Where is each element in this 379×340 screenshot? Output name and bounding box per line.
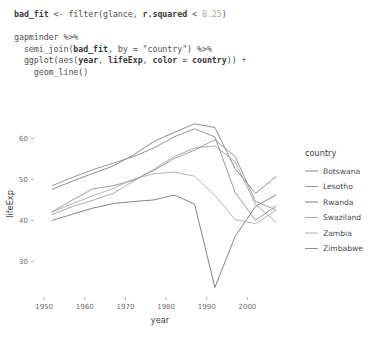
x-tick-label: 1950 [35, 303, 53, 311]
code-token: , [98, 55, 108, 65]
y-tick-label: 40 [19, 217, 28, 225]
code-token: semi_join( [14, 44, 73, 54]
code-line: geom_line() [14, 67, 354, 79]
x-axis-ticks: 195019601970198019902000 [35, 297, 256, 311]
y-tick-label: 30 [19, 258, 28, 266]
x-tick-label: 1970 [117, 303, 135, 311]
y-tick-label: 60 [19, 135, 28, 143]
x-tick-label: 1980 [157, 303, 175, 311]
code-token: bad_fit [73, 44, 108, 54]
code-snippet: bad_fit <- filter(glance, r.squared < 0.… [14, 9, 354, 79]
legend-label-zambia[interactable]: Zambia [323, 229, 352, 238]
code-token: , by = [108, 44, 143, 54]
line-chart-figure: 30405060 195019601970198019902000 lifeEx… [0, 112, 379, 340]
legend-label-rwanda[interactable]: Rwanda [323, 198, 353, 207]
code-token: "country" [143, 44, 188, 54]
code-token: ) [222, 9, 227, 19]
code-token: aes [59, 55, 74, 65]
code-token: <- [54, 9, 69, 19]
code-token: (glance, [98, 9, 143, 19]
code-token: = [177, 55, 192, 65]
code-line: gapminder %>% [14, 32, 354, 44]
x-tick-label: 2000 [238, 303, 256, 311]
code-token: r.squared [143, 9, 188, 19]
legend-label-lesotho[interactable]: Lesotho [323, 182, 353, 191]
code-token: %>% [197, 44, 212, 54]
code-token: ggplot( [14, 55, 59, 65]
code-token: %>% [63, 32, 78, 42]
panel-background [36, 114, 284, 294]
code-token: , [143, 55, 153, 65]
plot-panel: 30405060 195019601970198019902000 [19, 114, 284, 311]
y-axis-title: lifeExp [5, 190, 15, 218]
code-line: bad_fit <- filter(glance, r.squared < 0.… [14, 9, 354, 21]
y-axis-ticks: 30405060 [19, 135, 34, 266]
code-token: geom_line() [14, 67, 88, 77]
x-axis-title: year [151, 315, 170, 325]
code-token: ) [187, 44, 197, 54]
x-tick-label: 1960 [76, 303, 94, 311]
code-line: semi_join(bad_fit, by = "country") %>% [14, 44, 354, 56]
y-tick-label: 50 [19, 176, 28, 184]
code-token: country [192, 55, 227, 65]
code-token: color [153, 55, 178, 65]
legend-title: country [305, 148, 336, 158]
code-line [14, 21, 354, 33]
code-token: < [187, 9, 202, 19]
legend-label-zimbabwe[interactable]: Zimbabwe [323, 244, 363, 253]
code-token: filter [68, 9, 98, 19]
legend-items: BotswanaLesothoRwandaSwazilandZambiaZimb… [305, 167, 363, 254]
x-tick-label: 1990 [198, 303, 216, 311]
legend-label-swaziland[interactable]: Swaziland [323, 213, 361, 222]
legend-label-botswana[interactable]: Botswana [323, 167, 360, 176]
code-token: gapminder [14, 32, 63, 42]
plot-svg: 30405060 195019601970198019902000 lifeEx… [0, 112, 379, 340]
code-token: lifeExp [108, 55, 143, 65]
legend: country BotswanaLesothoRwandaSwazilandZa… [305, 148, 363, 253]
code-token: )) + [227, 55, 247, 65]
code-line: ggplot(aes(year, lifeExp, color = countr… [14, 55, 354, 67]
code-token: year [78, 55, 98, 65]
code-token: bad_fit [14, 9, 54, 19]
code-token: 0.25 [202, 9, 222, 19]
